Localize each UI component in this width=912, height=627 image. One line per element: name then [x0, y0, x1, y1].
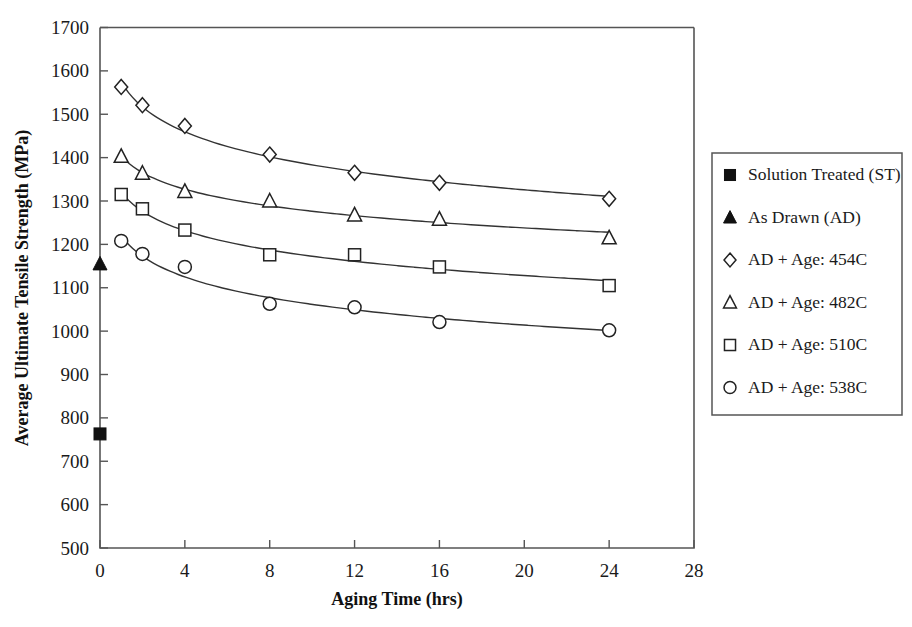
y-tick-label: 500	[61, 538, 90, 559]
filled-square-marker	[94, 428, 106, 440]
fit-curve	[121, 156, 609, 232]
open-diamond-marker	[603, 191, 616, 206]
series-data-points	[93, 79, 616, 440]
x-tick-label: 24	[600, 560, 620, 581]
legend-item[interactable]: AD + Age: 482C	[724, 292, 868, 312]
fit-curve	[121, 82, 609, 196]
y-tick-label: 1700	[51, 17, 89, 38]
open-diamond-marker	[263, 147, 276, 162]
chart-figure: 5006007008009001000110012001300140015001…	[0, 0, 912, 627]
y-tick-label: 600	[61, 494, 90, 515]
open-circle-marker	[433, 316, 446, 329]
y-axis-tick-labels: 5006007008009001000110012001300140015001…	[51, 17, 89, 559]
y-tick-label: 1500	[51, 104, 89, 125]
x-tick-label: 16	[430, 560, 449, 581]
legend-item[interactable]: AD + Age: 510C	[724, 334, 867, 354]
series-points	[94, 428, 106, 440]
tensile-strength-scatter-chart: 5006007008009001000110012001300140015001…	[0, 0, 912, 627]
x-tick-label: 12	[345, 560, 364, 581]
open-circle-marker	[348, 301, 361, 314]
y-tick-label: 900	[61, 364, 90, 385]
legend-item-label: AD + Age: 454C	[748, 249, 867, 269]
open-diamond-marker	[724, 253, 736, 267]
x-tick-label: 20	[515, 560, 534, 581]
open-triangle-marker	[348, 207, 362, 221]
open-square-marker	[349, 249, 361, 261]
open-diamond-marker	[115, 79, 128, 94]
legend: Solution Treated (ST)As Drawn (AD)AD + A…	[712, 153, 902, 415]
filled-square-marker	[724, 169, 735, 180]
legend-item-list: Solution Treated (ST)As Drawn (AD)AD + A…	[724, 164, 901, 397]
y-tick-label: 800	[61, 407, 90, 428]
series-points	[115, 234, 616, 336]
open-circle-marker	[263, 297, 276, 310]
open-circle-marker	[603, 324, 616, 337]
open-diamond-marker	[433, 175, 446, 190]
x-axis-title: Aging Time (hrs)	[331, 589, 462, 610]
series-points	[115, 79, 616, 206]
y-tick-label: 1400	[51, 147, 89, 168]
y-tick-label: 1200	[51, 234, 89, 255]
open-triangle-marker	[263, 194, 277, 208]
open-circle-marker	[724, 382, 736, 394]
open-triangle-marker	[432, 212, 446, 226]
series-fit-curves	[121, 82, 609, 331]
fit-curve	[121, 192, 609, 281]
series-points	[93, 256, 107, 270]
y-tick-label: 1600	[51, 60, 89, 81]
open-triangle-marker	[135, 166, 149, 180]
legend-item-label: AD + Age: 510C	[748, 334, 867, 354]
legend-item-label: As Drawn (AD)	[748, 207, 861, 227]
open-circle-marker	[115, 234, 128, 247]
open-square-marker	[179, 224, 191, 236]
fit-curve	[121, 235, 609, 330]
open-square-marker	[724, 339, 735, 350]
legend-item[interactable]: AD + Age: 454C	[724, 249, 867, 269]
filled-triangle-marker	[724, 211, 737, 223]
open-diamond-marker	[178, 118, 191, 133]
open-square-marker	[115, 188, 127, 200]
legend-item-label: Solution Treated (ST)	[748, 164, 901, 184]
open-circle-marker	[178, 260, 191, 273]
legend-item[interactable]: As Drawn (AD)	[724, 207, 861, 227]
legend-item-label: AD + Age: 482C	[748, 292, 867, 312]
x-tick-label: 4	[180, 560, 190, 581]
y-axis-title: Average Ultimate Tensile Strength (MPa)	[12, 130, 33, 446]
open-circle-marker	[136, 247, 149, 260]
open-square-marker	[136, 203, 148, 215]
filled-triangle-marker	[93, 256, 107, 270]
open-square-marker	[603, 280, 615, 292]
open-triangle-marker	[724, 296, 737, 308]
open-square-marker	[433, 261, 445, 273]
y-tick-label: 1100	[52, 277, 89, 298]
legend-item[interactable]: AD + Age: 538C	[724, 377, 867, 397]
y-tick-label: 700	[61, 451, 90, 472]
y-tick-label: 1300	[51, 191, 89, 212]
y-tick-label: 1000	[51, 321, 89, 342]
x-tick-label: 0	[95, 560, 105, 581]
open-diamond-marker	[348, 165, 361, 180]
x-axis-tick-labels: 0481216202428	[95, 560, 703, 581]
open-square-marker	[264, 249, 276, 261]
x-tick-label: 28	[685, 560, 704, 581]
legend-item[interactable]: Solution Treated (ST)	[724, 164, 900, 184]
legend-item-label: AD + Age: 538C	[748, 377, 867, 397]
open-triangle-marker	[114, 149, 128, 163]
x-tick-label: 8	[265, 560, 275, 581]
